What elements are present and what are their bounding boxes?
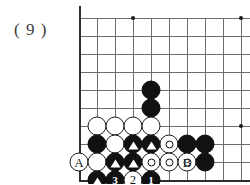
stone-black[interactable] [142, 99, 161, 118]
stone-white[interactable] [160, 135, 179, 154]
board-coordinate-label-a: A [74, 155, 83, 171]
stone-black[interactable] [178, 135, 197, 154]
stone-white[interactable] [88, 117, 107, 136]
stone-white[interactable] [106, 135, 125, 154]
stone-white[interactable] [160, 153, 179, 172]
stone-black-1[interactable]: 1 [142, 171, 161, 185]
stone-black[interactable] [196, 135, 215, 154]
stone-black[interactable] [88, 171, 107, 185]
board-grid-line-horizontal [79, 90, 250, 91]
stone-white[interactable] [106, 117, 125, 136]
go-problem-figure: ( 9 ) 321AB [0, 0, 250, 184]
board-grid-line-horizontal [79, 36, 250, 37]
star-point [239, 16, 243, 20]
circle-mark-icon [147, 158, 155, 166]
board-grid-line-horizontal [79, 18, 250, 19]
board-coordinate-label-b: B [183, 155, 192, 171]
star-point [239, 124, 243, 128]
star-point [131, 16, 135, 20]
board-grid-line-horizontal [79, 108, 250, 109]
stone-black[interactable] [142, 135, 161, 154]
triangle-mark-icon [128, 159, 138, 167]
triangle-mark-icon [92, 177, 102, 184]
stone-black[interactable] [106, 153, 125, 172]
stone-black[interactable] [88, 135, 107, 154]
stone-white[interactable] [88, 153, 107, 172]
triangle-mark-icon [110, 159, 120, 167]
stone-black-3[interactable]: 3 [106, 171, 125, 185]
stone-black[interactable] [124, 135, 143, 154]
stone-white[interactable] [142, 117, 161, 136]
move-number-label: 1 [148, 174, 154, 184]
stone-white[interactable] [142, 153, 161, 172]
move-number-label: 2 [130, 174, 136, 185]
move-number-label: 3 [112, 174, 118, 184]
board-grid-line-horizontal [79, 72, 250, 73]
triangle-mark-icon [146, 141, 156, 149]
triangle-mark-icon [128, 141, 138, 149]
stone-black[interactable] [196, 153, 215, 172]
board-grid-line-vertical [241, 18, 242, 180]
circle-mark-icon [165, 158, 173, 166]
stone-black[interactable] [124, 153, 143, 172]
stone-white[interactable] [124, 117, 143, 136]
stone-white-2[interactable]: 2 [124, 171, 143, 185]
board-grid-line-horizontal [79, 54, 250, 55]
stone-black[interactable] [142, 81, 161, 100]
circle-mark-icon [165, 140, 173, 148]
board-grid-line-vertical [223, 18, 224, 180]
go-board[interactable]: 321AB [0, 0, 250, 184]
